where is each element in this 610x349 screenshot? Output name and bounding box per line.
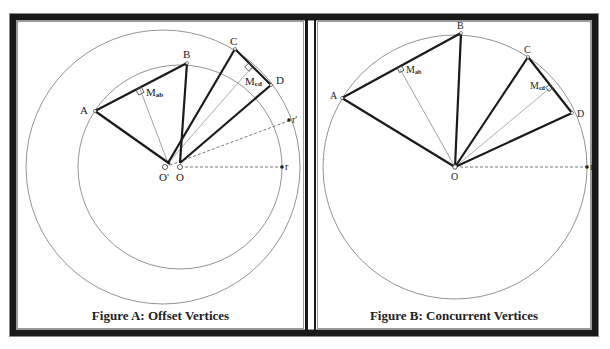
figure-b-diagram: A B C D Mab Mcd O r [316,20,594,330]
figure-a-caption: Figure A: Offset Vertices [16,308,305,324]
label-mcd: Mcd [245,75,262,88]
label-c: C [524,44,531,55]
panel-figure-b: A B C D Mab Mcd O r Figure B: Concurrent… [314,20,592,330]
label-mcd: Mcd [530,80,546,91]
figure-a-diagram: A B C D Mab Mcd O' O r r' [16,20,308,330]
label-r-prime: r' [292,114,297,125]
label-d: D [276,74,284,86]
label-b: B [457,20,464,31]
figure-frame: A B C D Mab Mcd O' O r r' Figure A: Offs… [10,14,598,336]
label-a: A [80,104,88,116]
label-a: A [330,90,338,101]
label-c: C [230,35,237,47]
panel-figure-a: A B C D Mab Mcd O' O r r' Figure A: Offs… [16,20,308,330]
label-b: B [183,48,190,60]
label-r: r [285,161,289,172]
label-mab: Mab [146,86,163,99]
label-r: r [590,161,594,172]
figure-b-caption: Figure B: Concurrent Vertices [316,308,592,324]
label-d: D [577,108,584,119]
label-mab: Mab [406,64,422,75]
label-o: O [451,171,458,182]
label-o: O [176,171,184,183]
label-o-prime: O' [159,171,169,183]
